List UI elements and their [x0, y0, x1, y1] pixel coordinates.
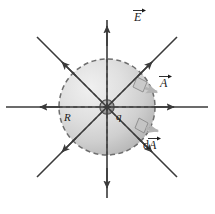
electric-field-vector-label: E — [134, 8, 141, 23]
diagram-canvas — [0, 0, 215, 214]
radius-label: R — [64, 112, 71, 123]
gauss-law-sphere-diagram: E A d A R q — [0, 0, 215, 214]
area-vector-symbol: A — [160, 76, 167, 90]
differential-area-vector-label: d A — [143, 136, 156, 151]
electric-field-lines — [6, 20, 208, 198]
charge-label: q — [116, 111, 122, 122]
area-vector-label: A — [160, 74, 167, 89]
electric-field-symbol: E — [134, 10, 141, 24]
differential-area-symbol: A — [149, 138, 156, 152]
